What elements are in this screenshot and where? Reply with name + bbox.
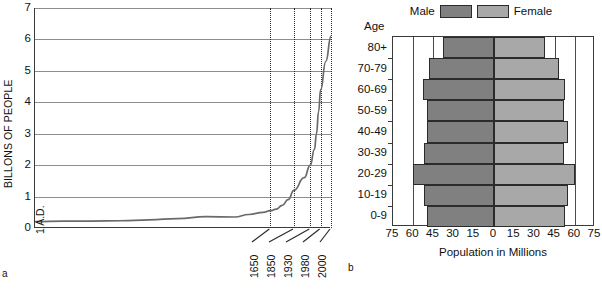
figure-b-age-label-30-39: 30-39	[358, 147, 387, 159]
figure-b-bar-male-40-49	[427, 121, 494, 142]
figure-a-x-tick-2000: 2000	[317, 255, 328, 278]
figure-b-x-tick-8: 45	[547, 228, 560, 240]
figure-b-age-label-40-49: 40-49	[358, 126, 387, 138]
figure-a-x-tick-labels: 16501850193019802000	[34, 228, 334, 286]
figure-b-bar-female-50-59	[494, 100, 564, 121]
figure-b-bar-male-80+	[443, 37, 494, 58]
figure-b-bar-male-30-39	[424, 143, 494, 164]
figure-b-bar-female-40-49	[494, 121, 568, 142]
figure-b-age-tick	[388, 143, 393, 144]
figure-b-gridline-60	[413, 37, 414, 225]
figure-b-population-pyramid-chart: Male Female Age 80+70-7960-6950-5940-493…	[360, 0, 602, 289]
figure-b-bar-male-0-9	[427, 206, 494, 227]
figure-b-bar-female-10-19	[494, 185, 568, 206]
figure-a-world-population-chart: BILLONS OF PEOPLE 01234567 1 A.D. 165018…	[0, 0, 360, 289]
figure-a-x-tick-1930: 1930	[283, 255, 294, 278]
figure-b-age-label-20-29: 20-29	[358, 168, 387, 180]
figure-b-age-label-0-9: 0-9	[370, 211, 387, 223]
figure-b-gridline-60	[575, 37, 576, 225]
figure-b-bar-male-50-59	[427, 100, 494, 121]
figure-a-x-tick-1980: 1980	[300, 255, 311, 278]
figure-b-x-tick-7: 30	[527, 228, 540, 240]
legend-swatch-male	[440, 5, 472, 18]
figure-b-bar-female-60-69	[494, 79, 565, 100]
figure-b-x-axis-label: Population in Millions	[392, 246, 594, 258]
figure-b-age-label-60-69: 60-69	[358, 84, 387, 96]
figure-b-age-tick	[388, 121, 393, 122]
figure-b-x-tick-2: 45	[426, 228, 439, 240]
legend-label-male: Male	[410, 5, 435, 17]
figure-b-bar-female-30-39	[494, 143, 564, 164]
figure-b-x-tick-0: 75	[386, 228, 399, 240]
figure-b-x-tick-1: 60	[406, 228, 419, 240]
figure-b-age-label-10-19: 10-19	[358, 190, 387, 202]
figure-b-age-tick	[388, 206, 393, 207]
figure-b-age-tick	[388, 79, 393, 80]
figure-b-x-tick-9: 60	[567, 228, 580, 240]
figure-b-x-tick-4: 15	[466, 228, 479, 240]
figure-b-age-label-80+: 80+	[367, 42, 387, 54]
figure-b-bar-female-80+	[494, 37, 545, 58]
figure-b-age-tick	[388, 185, 393, 186]
figure-b-plot-area: 80+70-7960-6950-5940-4930-3920-2910-190-…	[392, 36, 594, 226]
figure-b-x-tick-labels: 756045301501530456075	[392, 228, 594, 244]
figure-b-bar-male-70-79	[429, 58, 494, 79]
figure-b-x-tick-3: 30	[446, 228, 459, 240]
figure-b-x-tick-5: 0	[490, 228, 496, 240]
figure-b-age-tick	[388, 100, 393, 101]
figure-b-bar-female-20-29	[494, 164, 575, 185]
figure-a-x-tick-1850: 1850	[266, 255, 277, 278]
figure-b-x-tick-6: 15	[507, 228, 520, 240]
figure-b-age-axis-caption: Age	[364, 20, 384, 32]
figure-b-bar-male-10-19	[424, 185, 494, 206]
figure-a-x-tick-1650: 1650	[249, 255, 260, 278]
figure-b-age-tick	[388, 58, 393, 59]
figure-b-age-label-70-79: 70-79	[358, 63, 387, 75]
figure-b-bar-male-60-69	[423, 79, 494, 100]
figure-b-age-label-50-59: 50-59	[358, 105, 387, 117]
figure-b-x-tick-10: 75	[588, 228, 601, 240]
figure-a-panel-letter: a	[2, 268, 8, 279]
legend-swatch-female	[477, 5, 509, 18]
figure-b-bar-female-70-79	[494, 58, 559, 79]
figure-b-bar-male-20-29	[413, 164, 494, 185]
legend-label-female: Female	[514, 5, 552, 17]
figure-b-bar-female-0-9	[494, 206, 565, 227]
figure-b-panel-letter: b	[348, 262, 354, 273]
figure-b-legend: Male Female	[360, 2, 602, 20]
figure-b-age-tick	[388, 164, 393, 165]
